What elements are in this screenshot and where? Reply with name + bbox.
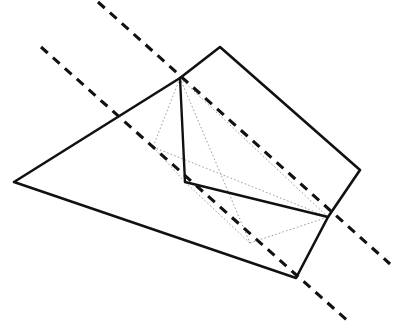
solid-edge-ridge-front-to-base-front — [180, 78, 185, 182]
hidden-edge-ridge-front-to-right-mid — [180, 78, 328, 217]
hidden-edge-ridge-front-to-hidden-bottom — [180, 78, 250, 243]
hidden-edge-ridge-front-to-hidden-left — [153, 78, 180, 147]
hidden-edges-group — [153, 78, 328, 243]
geometry-diagram — [0, 0, 393, 327]
figure-canvas — [0, 0, 393, 327]
hidden-edge-hidden-left-to-base-front — [153, 147, 185, 182]
hidden-edge-hidden-left-to-right-mid — [153, 147, 328, 217]
